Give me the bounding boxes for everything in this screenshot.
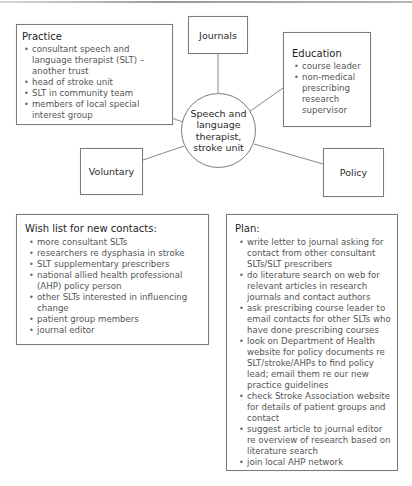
list-item: researchers re dysphasia in stroke (25, 248, 200, 259)
plan-title: Plan: (235, 223, 391, 235)
education-list: course leader non-medical prescribing re… (292, 61, 365, 116)
plan-panel: Plan: write letter to journal asking for… (226, 214, 398, 471)
journals-node: Journals (188, 16, 248, 54)
connector-policy (254, 144, 323, 164)
education-title: Education (292, 48, 365, 60)
list-item: consultant speech and language therapist… (22, 44, 167, 77)
hub-node: Speech and language therapist, stroke un… (181, 93, 256, 168)
list-item: suggest article to journal editor re ove… (235, 424, 391, 457)
list-item: other SLTs interested in influencing cha… (25, 292, 200, 314)
list-item: national allied health professional (AHP… (25, 270, 200, 292)
list-item: SLT supplementary prescribers (25, 259, 200, 270)
practice-list: consultant speech and language therapist… (22, 44, 167, 121)
practice-node: Practice consultant speech and language … (16, 24, 173, 125)
list-item: non-medical prescribing research supervi… (292, 72, 365, 116)
connector-voluntary (143, 146, 184, 160)
voluntary-node: Voluntary (80, 148, 143, 195)
list-item: join local AHP network (235, 457, 391, 468)
wishlist-panel: Wish list for new contacts: more consult… (16, 214, 209, 345)
list-item: write letter to journal asking for conta… (235, 237, 391, 270)
wishlist-list: more consultant SLTs researchers re dysp… (25, 237, 200, 336)
practice-title: Practice (22, 31, 167, 43)
list-item: SLT in community team (22, 88, 167, 99)
list-item: course leader (292, 61, 365, 72)
connector-education (249, 88, 283, 112)
plan-list: write letter to journal asking for conta… (235, 237, 391, 468)
list-item: more consultant SLTs (25, 237, 200, 248)
voluntary-label: Voluntary (89, 166, 134, 177)
list-item: head of stroke unit (22, 77, 167, 88)
policy-label: Policy (340, 167, 367, 178)
list-item: members of local special interest group (22, 99, 167, 121)
list-item: patient group members (25, 314, 200, 325)
journals-label: Journals (199, 30, 237, 41)
list-item: journal editor (25, 325, 200, 336)
hub-label: Speech and language therapist, stroke un… (189, 108, 249, 154)
policy-node: Policy (323, 148, 384, 197)
list-item: look on Department of Health website for… (235, 336, 391, 391)
list-item: check Stroke Association website for det… (235, 391, 391, 424)
education-node: Education course leader non-medical pres… (283, 32, 371, 127)
list-item: ask prescribing course leader to email c… (235, 303, 391, 336)
wishlist-title: Wish list for new contacts: (25, 223, 200, 235)
list-item: do literature search on web for relevant… (235, 270, 391, 303)
